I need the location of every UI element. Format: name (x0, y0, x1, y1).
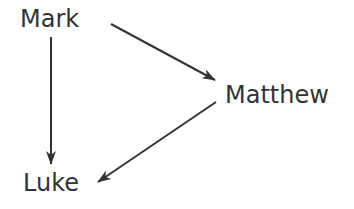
node-matthew: Matthew (225, 83, 329, 107)
arrow-mark-to-matthew (111, 24, 215, 80)
arrow-matthew-to-luke (98, 102, 216, 182)
node-luke: Luke (23, 171, 79, 195)
node-mark: Mark (20, 7, 79, 31)
